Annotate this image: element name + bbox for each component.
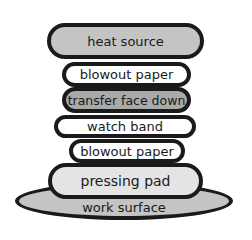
blowout-paper-bottom-label: blowout paper bbox=[80, 144, 174, 159]
blowout-paper-top-label: blowout paper bbox=[80, 67, 174, 82]
pressing-pad-label: pressing pad bbox=[81, 173, 171, 189]
heat-source-label: heat source bbox=[87, 34, 164, 49]
transfer-face-down-label: transfer face down bbox=[68, 93, 186, 108]
watch-band-layer: watch band bbox=[54, 115, 196, 138]
pressing-pad-layer: pressing pad bbox=[48, 163, 203, 199]
transfer-face-down-layer: transfer face down bbox=[62, 87, 191, 113]
work-surface-label: work surface bbox=[82, 200, 166, 215]
blowout-paper-top-layer: blowout paper bbox=[62, 62, 191, 87]
heat-source-layer: heat source bbox=[47, 23, 204, 59]
watch-band-label: watch band bbox=[87, 119, 163, 134]
blowout-paper-bottom-layer: blowout paper bbox=[69, 139, 185, 163]
